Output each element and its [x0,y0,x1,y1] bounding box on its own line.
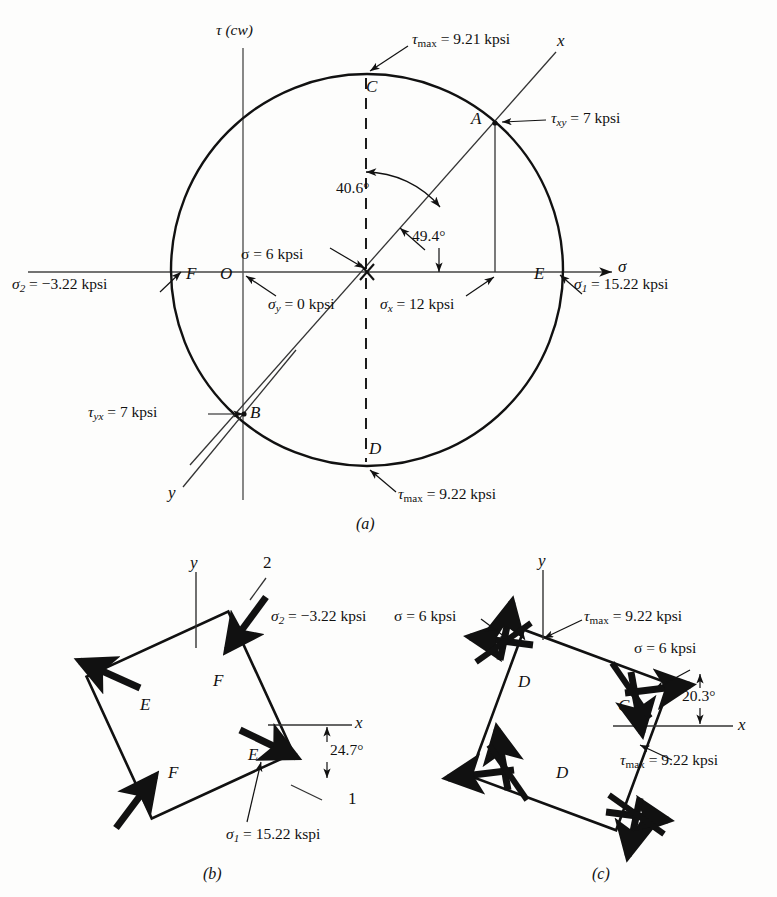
element-b-sigma1-label: σ1 = 15.22 kspi [226,826,320,844]
element-b-y-label: y [190,554,198,571]
element-b-face-F-top: F [213,672,223,689]
element-c-taumax-top-label: τmax = 9.22 kpsi [584,608,682,626]
point-label-C: C [366,78,377,95]
element-c-sigma-top-label: σ = 6 kpsi [394,608,456,624]
point-dot-A [492,120,497,125]
element-b-square [87,612,294,819]
element-c-sigma-right-label: σ = 6 kpsi [634,640,696,656]
element-b-dir1-line [291,785,322,800]
point-label-D: D [369,440,381,457]
angle-49-label: 49.4° [412,228,445,244]
y-axis-label-a: y [168,484,176,501]
element-c-face-D-top: D [518,673,530,690]
caption-c: (c) [592,866,610,882]
leader-sigma-y [246,276,276,296]
angle-40-label: 40.6° [336,180,369,196]
point-label-A: A [471,110,481,127]
leader-taumax-top [370,46,408,71]
leader-tauxy [502,120,546,122]
figure-page: τ (cw) τmax = 9.21 kpsi x C A τxy = 7 kp… [0,0,777,897]
element-b-face-F-bottom: F [168,764,178,781]
sigma-axis-label: σ [618,258,626,275]
tau-max-top-label: τmax = 9.21 kpsi [412,31,510,49]
element-b-dir2-label: 2 [263,554,272,571]
element-b-face-E-right: E [248,746,258,763]
caption-a: (a) [356,516,375,532]
point-label-E: E [534,265,544,282]
sigma-center-label: σ = 6 kpsi [241,246,303,262]
leader-taumax-bot [370,470,396,492]
element-c-angle-label: 20.3° [682,688,715,704]
point-label-O: O [220,265,232,282]
point-label-F: F [186,265,196,282]
point-dot-B [241,411,246,416]
leader-sigma-center [330,248,364,268]
element-c-taumax-bot-label: τmax = 9.22 kpsi [620,752,718,770]
sigma-2-label-a: σ2 = −3.22 kpsi [12,276,107,294]
element-b-sigma2-label: σ2 = −3.22 kpsi [271,608,366,626]
element-c-x-label: x [738,716,746,733]
element-c-top-normal-arrow [500,602,512,660]
tau-max-bottom-label: τmax = 9.22 kpsi [398,486,496,504]
element-c-face-C-right: C [618,697,629,714]
element-c-face-C-left: C [490,734,501,751]
element-c-face-D-bottom: D [556,764,568,781]
element-b-angle-label: 24.7° [330,742,363,758]
mohr-circle-group [28,46,612,500]
x-axis-label-a: x [557,32,565,49]
angle-arc-40 [366,172,440,207]
element-c-leader-taumax-top [544,620,582,638]
tau-yx-label: τyx = 7 kpsi [88,404,157,422]
element-b-face-E-left: E [140,696,150,713]
sigma-y-label: σy = 0 kpsi [268,296,335,314]
element-b-dir1-label: 1 [348,790,357,807]
caption-b: (b) [203,866,222,882]
element-b-x-label: x [355,714,363,731]
sigma-x-label: σx = 12 kpsi [380,296,454,314]
leader-sigma-x [466,277,494,296]
point-label-B: B [250,404,260,421]
element-c-y-label: y [538,552,546,569]
tau-axis-label: τ (cw) [216,22,253,38]
sigma-1-label-a: σ1 = 15.22 kpsi [574,276,668,294]
tau-xy-label: τxy = 7 kpsi [551,110,620,128]
